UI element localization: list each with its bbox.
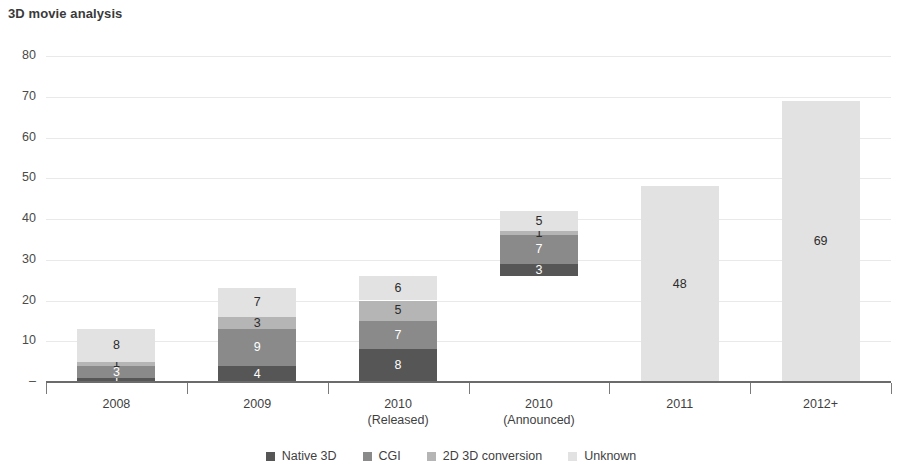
chart-container: 3D movie analysis 8070605040302010–13184… [0, 0, 902, 476]
y-axis-label: – [2, 375, 36, 388]
gridline [46, 301, 891, 302]
bar-segment[interactable]: 69 [782, 101, 860, 382]
bar-segment[interactable]: 7 [218, 288, 296, 317]
x-axis-category-label: 2012+ [803, 397, 838, 411]
x-axis-divider [46, 383, 47, 394]
bar-segment[interactable]: 8 [359, 349, 437, 382]
legend-item[interactable]: Unknown [568, 450, 636, 463]
x-axis-category-label: 2010 [384, 397, 412, 411]
x-axis-divider [750, 383, 751, 394]
bar-value-label: 8 [395, 359, 402, 372]
x-axis-divider [187, 383, 188, 394]
plot-area: 8070605040302010–13184937875637154869 [46, 56, 891, 382]
bar-value-label: 3 [535, 264, 542, 277]
legend-swatch-icon [266, 452, 275, 461]
legend-label: CGI [379, 450, 401, 463]
x-axis-divider [609, 383, 610, 394]
y-axis-tick: 50 [46, 178, 891, 179]
x-axis-category: 2010(Announced) [469, 396, 610, 428]
x-axis-category-sublabel: (Announced) [469, 412, 610, 428]
x-axis-category-label: 2011 [666, 397, 693, 411]
bar-group[interactable]: 69 [782, 56, 860, 382]
x-axis-category-label: 2009 [243, 397, 271, 411]
bar-value-label: 9 [254, 341, 261, 354]
bar-group[interactable]: 1318 [77, 56, 155, 382]
bar-value-label: 4 [254, 368, 261, 381]
x-axis-category: 2008 [46, 396, 187, 412]
legend-label: Unknown [584, 450, 636, 463]
x-axis-category-label: 2010 [525, 397, 553, 411]
bar-segment[interactable]: 1 [500, 231, 578, 235]
y-axis-label: 60 [2, 131, 36, 144]
bar-value-label: 8 [113, 339, 120, 352]
bar-segment[interactable]: 7 [359, 321, 437, 350]
legend-item[interactable]: CGI [363, 450, 401, 463]
bar-value-label: 7 [254, 296, 261, 309]
gridline [46, 260, 891, 261]
legend-label: 2D 3D conversion [443, 450, 542, 463]
page-title: 3D movie analysis [8, 6, 122, 21]
y-axis-tick: 80 [46, 56, 891, 57]
x-axis-divider [469, 383, 470, 394]
gridline [46, 97, 891, 98]
y-axis-tick: 70 [46, 97, 891, 98]
bar-segment[interactable]: 3 [218, 317, 296, 329]
bar-segment[interactable]: 6 [359, 276, 437, 300]
gridline [46, 178, 891, 179]
x-axis-category: 2010(Released) [328, 396, 469, 428]
x-axis-category: 2009 [187, 396, 328, 412]
chart-legend: Native 3DCGI2D 3D conversionUnknown [0, 450, 902, 463]
bar-segment[interactable]: 5 [359, 301, 437, 321]
gridline [46, 341, 891, 342]
bar-segment[interactable]: 4 [218, 366, 296, 382]
bar-value-label: 5 [535, 215, 542, 228]
y-axis-label: 40 [2, 212, 36, 225]
y-axis-label: 20 [2, 294, 36, 307]
y-axis-label: 30 [2, 253, 36, 266]
y-axis-tick: 20 [46, 301, 891, 302]
gridline [46, 56, 891, 57]
bar-segment[interactable]: 1 [77, 362, 155, 366]
bar-segment[interactable]: 48 [641, 186, 719, 382]
y-axis-tick: 40 [46, 219, 891, 220]
bar-segment[interactable]: 8 [77, 329, 155, 362]
bar-group[interactable]: 48 [641, 56, 719, 382]
bar-value-label: 5 [395, 304, 402, 317]
bar-value-label: 3 [254, 317, 261, 330]
y-axis-label: 70 [2, 90, 36, 103]
x-axis-divider [328, 383, 329, 394]
x-axis-divider [891, 383, 892, 394]
bar-segment[interactable]: 5 [500, 211, 578, 231]
y-axis-tick: 30 [46, 260, 891, 261]
y-axis-tick: 60 [46, 138, 891, 139]
y-axis-label: 50 [2, 171, 36, 184]
legend-swatch-icon [363, 452, 372, 461]
bar-value-label: 3 [113, 366, 120, 379]
x-axis-category-sublabel: (Released) [328, 412, 469, 428]
bar-segment[interactable]: 9 [218, 329, 296, 366]
bar-group[interactable]: 4937 [218, 56, 296, 382]
bar-group[interactable]: 3715 [500, 56, 578, 382]
legend-item[interactable]: Native 3D [266, 450, 337, 463]
bar-value-label: 7 [395, 329, 402, 342]
bar-value-label: 48 [673, 278, 687, 291]
x-axis-category: 2012+ [750, 396, 891, 412]
x-axis-category: 2011 [609, 396, 750, 412]
gridline [46, 219, 891, 220]
bar-segment[interactable]: 7 [500, 235, 578, 264]
bar-value-label: 69 [814, 235, 828, 248]
y-axis-tick: 10 [46, 341, 891, 342]
legend-swatch-icon [427, 452, 436, 461]
gridline [46, 138, 891, 139]
bar-segment[interactable]: 3 [500, 264, 578, 276]
bar-value-label: 7 [535, 243, 542, 256]
bar-group[interactable]: 8756 [359, 56, 437, 382]
y-axis-label: 80 [2, 49, 36, 62]
bar-segment[interactable]: 3 [77, 366, 155, 378]
legend-item[interactable]: 2D 3D conversion [427, 450, 542, 463]
legend-swatch-icon [568, 452, 577, 461]
legend-label: Native 3D [282, 450, 337, 463]
bar-value-label: 6 [395, 282, 402, 295]
x-axis-category-label: 2008 [103, 397, 131, 411]
y-axis-label: 10 [2, 334, 36, 347]
